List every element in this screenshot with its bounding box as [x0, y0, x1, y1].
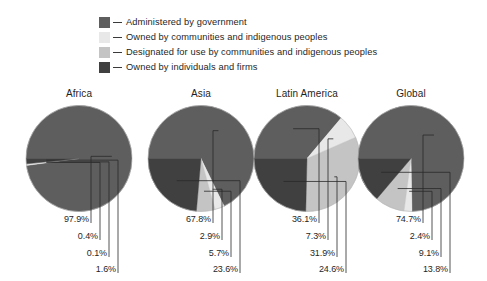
pie-slice-3: [148, 159, 201, 212]
pie-value-label: 0.4%: [18, 231, 98, 241]
pie-slice-3: [254, 159, 307, 212]
pie-global: [358, 105, 465, 212]
pie-value-label: 1.6%: [18, 264, 116, 274]
pie-asia: [148, 105, 255, 212]
pie-value-label: 7.3%: [246, 231, 326, 241]
pie-value-label: 2.4%: [350, 231, 430, 241]
pie-value-label: 31.9%: [246, 248, 335, 258]
pie-title-asia: Asia: [140, 88, 262, 99]
pie-value-label: 24.6%: [246, 264, 344, 274]
pie-chart-figure: Administered by government Owned by comm…: [0, 0, 487, 281]
pie-value-label: 13.8%: [350, 264, 448, 274]
pie-value-label: 67.8%: [140, 214, 211, 224]
pie-value-label: 5.7%: [140, 248, 229, 258]
pie-africa: [26, 105, 133, 212]
pie-value-label: 2.9%: [140, 231, 220, 241]
pie-title-global: Global: [350, 88, 472, 99]
pie-value-label: 23.6%: [140, 264, 238, 274]
pie-value-label: 97.9%: [18, 214, 89, 224]
pie-value-label: 36.1%: [246, 214, 317, 224]
pie-latin-america: [254, 105, 361, 212]
pie-panel-asia: Asia67.8%2.9%5.7%23.6%: [140, 0, 262, 281]
pie-value-label: 74.7%: [350, 214, 421, 224]
pie-title-africa: Africa: [18, 88, 140, 99]
pie-panel-global: Global74.7%2.4%9.1%13.8%: [350, 0, 472, 281]
pie-value-label: 9.1%: [350, 248, 439, 258]
pie-panel-africa: Africa97.9%0.4%0.1%1.6%: [18, 0, 140, 281]
pie-value-label: 0.1%: [18, 248, 107, 258]
